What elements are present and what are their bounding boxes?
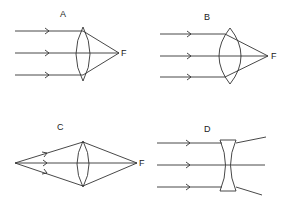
panel-d: D [157, 124, 266, 195]
panel-c: C F [15, 122, 145, 187]
refracted-ray-d-bottom [236, 187, 262, 195]
refracted-ray-a-bottom [83, 53, 119, 75]
refracted-ray-b-bottom [225, 56, 268, 77]
refracted-ray-b-top [225, 34, 268, 56]
ray-c-bottom [15, 163, 83, 186]
focus-label-c: F [139, 158, 145, 168]
refracted-ray-c-bottom [83, 163, 137, 186]
refracted-ray-c-top [83, 142, 137, 163]
panel-a-label: A [60, 9, 66, 19]
focus-label-b: F [271, 51, 277, 61]
diagram-canvas: A F B F C F [0, 0, 291, 197]
panel-b: B F [160, 12, 277, 84]
focus-label-a: F [121, 48, 127, 58]
lens-diagram: A F B F C F [0, 0, 291, 197]
refracted-ray-d-top [236, 137, 266, 143]
arrow-icon [42, 169, 47, 174]
ray-c-top [15, 142, 83, 163]
panel-a: A F [15, 9, 127, 81]
convex-lens-a [76, 27, 90, 81]
panel-b-label: B [204, 12, 210, 22]
concave-lens-d [220, 140, 236, 191]
convex-lens-c [77, 141, 89, 187]
panel-c-label: C [57, 122, 64, 132]
panel-d-label: D [204, 124, 211, 134]
